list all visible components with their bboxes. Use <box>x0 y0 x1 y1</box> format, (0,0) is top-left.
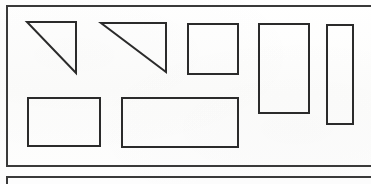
square-medium <box>188 24 238 74</box>
right-triangle-wide <box>101 23 166 72</box>
figure-canvas <box>0 0 371 184</box>
rectangle-landscape-small <box>28 98 100 146</box>
right-triangle-small <box>27 22 76 73</box>
rectangle-tall-portrait <box>259 24 309 113</box>
rectangle-landscape-wide <box>122 98 238 147</box>
scanned-page: Seven outlined geometric shapes: two rig… <box>0 0 371 184</box>
lower-figure-panel <box>6 177 371 184</box>
rectangle-narrow-strip <box>327 25 353 124</box>
